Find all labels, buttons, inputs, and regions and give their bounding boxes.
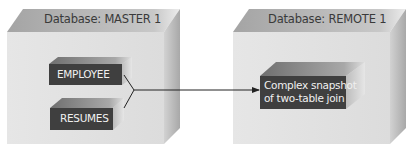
cube-side-face xyxy=(390,9,406,144)
snapshot-label-line2: of two-table join xyxy=(264,92,356,105)
cube-side-face xyxy=(164,9,180,144)
resumes-table-label: RESUMES xyxy=(60,112,109,124)
employee-table-label: EMPLOYEE xyxy=(57,68,109,80)
remote-database-label: Database: REMOTE 1 xyxy=(268,12,386,26)
snapshot-label: Complex snapshot of two-table join xyxy=(264,79,356,105)
master-database-label: Database: MASTER 1 xyxy=(44,12,161,26)
snapshot-label-line1: Complex snapshot xyxy=(264,79,356,92)
